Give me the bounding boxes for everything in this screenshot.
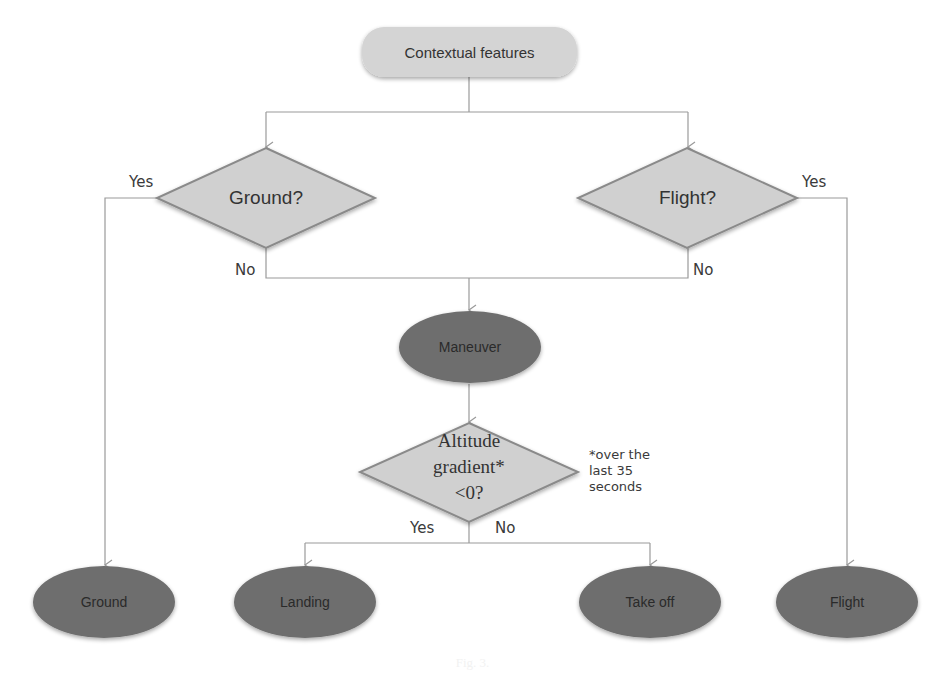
altitude-footnote: *over the last 35 seconds	[589, 447, 650, 495]
altitude-line-1: Altitude	[380, 428, 558, 454]
altitude-no-label: No	[495, 520, 515, 536]
ground-decision-label: Ground?	[157, 178, 375, 218]
flight-no-label: No	[693, 262, 713, 278]
ground-state-label: Ground	[33, 586, 175, 618]
maneuver-state-label: Maneuver	[399, 331, 541, 363]
ground-yes-label: Yes	[129, 174, 153, 190]
connector-flight-yes	[797, 198, 847, 565]
altitude-line-2: gradient*	[380, 454, 558, 480]
footnote-line-2: last 35	[589, 463, 650, 479]
start-node-label: Contextual features	[362, 27, 577, 77]
flight-state-label: Flight	[776, 586, 918, 618]
connector-ground-no	[266, 248, 688, 278]
flight-decision-label: Flight?	[578, 178, 797, 218]
ground-no-label: No	[235, 262, 255, 278]
figure-caption: Fig. 3.	[0, 655, 945, 671]
flight-yes-label: Yes	[802, 174, 826, 190]
connector-ground-yes	[105, 198, 157, 565]
altitude-yes-label: Yes	[410, 520, 434, 536]
altitude-line-3: <0?	[380, 480, 558, 506]
footnote-line-1: *over the	[589, 447, 650, 463]
footnote-line-3: seconds	[589, 479, 650, 495]
altitude-decision-label: Altitude gradient* <0?	[380, 428, 558, 506]
landing-state-label: Landing	[234, 586, 376, 618]
takeoff-state-label: Take off	[579, 586, 721, 618]
